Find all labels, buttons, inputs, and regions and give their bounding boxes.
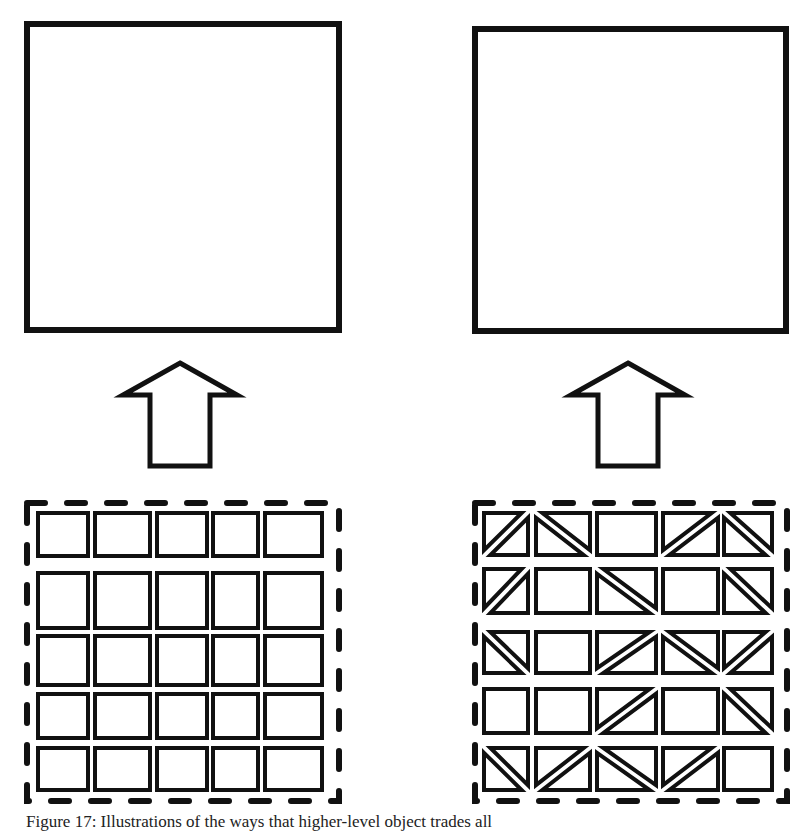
grid-cell-triangle	[603, 694, 656, 733]
grid-cell-triangle	[730, 569, 772, 608]
grid-cell-triangle	[669, 518, 718, 555]
up-arrow-icon	[123, 363, 237, 466]
grid-cell	[724, 748, 772, 790]
grid-cell	[157, 573, 207, 628]
grid-cell-triangle	[597, 574, 650, 613]
grid-cell-triangle	[724, 574, 766, 613]
grid-cell-triangle	[669, 632, 718, 668]
grid-cell	[95, 573, 150, 628]
grid-cell	[213, 748, 258, 790]
grid-cell	[265, 636, 322, 685]
grid-cell	[663, 689, 718, 733]
figure-caption: Figure 17: Illustrations of the ways tha…	[26, 812, 808, 832]
dashed-input-boundary	[27, 503, 339, 801]
grid-cell	[157, 748, 207, 790]
grid-cell-triangle	[669, 753, 718, 790]
grid-cell-triangle	[542, 513, 590, 550]
grid-cell	[157, 513, 207, 556]
grid-cell	[597, 513, 656, 555]
grid-cell-triangle	[663, 637, 712, 673]
grid-cell-triangle	[542, 753, 590, 790]
grid-cell-triangle	[536, 748, 584, 785]
grid-cell-triangle	[603, 748, 656, 785]
grid-cell	[95, 694, 150, 738]
grid-cell-triangle	[597, 632, 650, 668]
grid-cell	[536, 569, 590, 613]
grid-cell-triangle	[597, 689, 650, 728]
grid-cell	[213, 694, 258, 738]
grid-cell	[38, 573, 88, 628]
grid-cell	[663, 569, 718, 613]
grid-cell-triangle	[603, 637, 656, 673]
grid-cell-triangle	[603, 569, 656, 608]
grid-cell-triangle	[663, 513, 712, 550]
grid-cell-triangle	[597, 753, 650, 790]
grid-cell	[213, 636, 258, 685]
grid-cell-triangle	[536, 518, 584, 555]
grid-cell	[157, 694, 207, 738]
grid-cell	[95, 513, 150, 556]
grid-cell	[265, 748, 322, 790]
grid-cell	[157, 636, 207, 685]
grid-cell	[95, 748, 150, 790]
grid-cell	[213, 573, 258, 628]
grid-cell	[265, 513, 322, 556]
grid-cell	[213, 513, 258, 556]
grid-cell	[95, 636, 150, 685]
grid-cell	[265, 694, 322, 738]
grid-cell-triangle	[730, 689, 772, 728]
grid-cell	[38, 748, 88, 790]
grid-cell	[536, 632, 590, 673]
grid-cell	[38, 694, 88, 738]
grid-cell	[536, 689, 590, 733]
left-panel	[27, 24, 339, 801]
grid-cell-triangle	[663, 748, 712, 785]
output-square	[475, 29, 786, 331]
grid-cell	[38, 636, 88, 685]
output-square	[27, 24, 339, 330]
grid-cell	[484, 689, 528, 733]
grid-cell-triangle	[724, 694, 766, 733]
up-arrow-icon	[571, 363, 685, 466]
grid-cell	[38, 513, 88, 556]
right-panel	[475, 29, 787, 801]
grid-cell	[265, 573, 322, 628]
